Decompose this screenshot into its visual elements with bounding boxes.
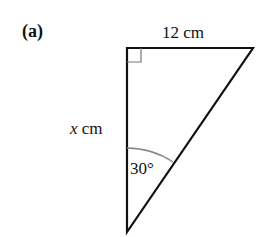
left-side-label: x cm bbox=[70, 120, 103, 137]
unit-cm: cm bbox=[78, 119, 103, 138]
right-angle-marker bbox=[127, 48, 141, 62]
variable-x: x bbox=[70, 119, 78, 138]
angle-label: 30° bbox=[130, 160, 154, 177]
part-label: (a) bbox=[22, 22, 43, 40]
top-side-label: 12 cm bbox=[162, 24, 204, 41]
triangle bbox=[127, 48, 253, 232]
